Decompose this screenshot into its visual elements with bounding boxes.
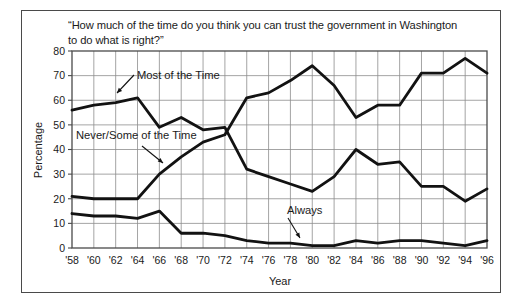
series-annotations: Most of the TimeNever/Some of the TimeAl… bbox=[76, 69, 323, 238]
line-chart: 01020304050607080 '58'60'62'64'66'68'70'… bbox=[0, 0, 522, 304]
x-tick-label: '62 bbox=[109, 254, 123, 266]
y-tick-label: 30 bbox=[53, 168, 65, 180]
x-tick-label: '94 bbox=[458, 254, 472, 266]
x-axis-label: Year bbox=[269, 275, 292, 287]
series-line bbox=[72, 211, 487, 245]
x-tick-label: '80 bbox=[305, 254, 319, 266]
x-tick-label: '72 bbox=[218, 254, 232, 266]
series-annotation-label: Never/Some of the Time bbox=[76, 129, 197, 141]
x-tick-label: '78 bbox=[284, 254, 298, 266]
y-tick-label: 60 bbox=[53, 94, 65, 106]
y-tick-label: 10 bbox=[53, 217, 65, 229]
y-axis-tick-labels: 01020304050607080 bbox=[53, 45, 72, 254]
x-tick-label: '84 bbox=[349, 254, 363, 266]
y-tick-label: 70 bbox=[53, 69, 65, 81]
y-tick-label: 80 bbox=[53, 45, 65, 57]
data-series-lines bbox=[72, 58, 487, 245]
y-tick-label: 20 bbox=[53, 193, 65, 205]
x-tick-label: '96 bbox=[480, 254, 494, 266]
series-annotation-label: Always bbox=[287, 204, 323, 216]
y-tick-label: 50 bbox=[53, 119, 65, 131]
y-tick-label: 0 bbox=[59, 242, 65, 254]
x-tick-label: '60 bbox=[87, 254, 101, 266]
y-tick-label: 40 bbox=[53, 143, 65, 155]
x-tick-label: '74 bbox=[240, 254, 254, 266]
x-tick-label: '70 bbox=[196, 254, 210, 266]
x-axis-tick-labels: '58'60'62'64'66'68'70'72'74'76'78'80'82'… bbox=[65, 254, 494, 266]
series-annotation-label: Most of the Time bbox=[137, 69, 220, 81]
x-tick-label: '66 bbox=[153, 254, 167, 266]
x-tick-label: '90 bbox=[415, 254, 429, 266]
x-tick-label: '86 bbox=[371, 254, 385, 266]
x-tick-label: '64 bbox=[131, 254, 145, 266]
y-axis-label: Percentage bbox=[32, 122, 44, 178]
x-tick-label: '58 bbox=[65, 254, 79, 266]
x-tick-label: '82 bbox=[327, 254, 341, 266]
figure-container: “How much of the time do you think you c… bbox=[0, 0, 522, 304]
x-tick-label: '88 bbox=[393, 254, 407, 266]
x-tick-label: '68 bbox=[174, 254, 188, 266]
x-tick-label: '76 bbox=[262, 254, 276, 266]
x-tick-label: '92 bbox=[436, 254, 450, 266]
